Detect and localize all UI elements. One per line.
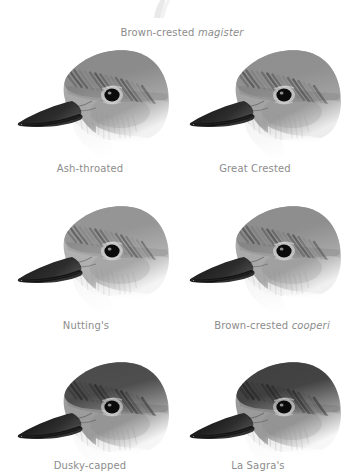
caption-common-name: Dusky-capped [54,460,127,471]
caption-common-name: Brown-crested [120,27,197,38]
caption-la-sagras: La Sagra's [231,460,284,472]
caption-common-name: La Sagra's [231,460,284,471]
caption-brown-crested-magister: Brown-crested magister [120,27,243,39]
bird-comparison-plate: Brown-crested magister [0,0,352,476]
caption-scientific-name: magister [198,27,244,38]
caption-dusky-capped: Dusky-capped [54,460,127,472]
bird-illustration-la-sagras [180,356,350,476]
bird-illustration-ash-throated [8,44,178,164]
caption-scientific-name: cooperi [292,320,330,331]
caption-common-name: Brown-crested [214,320,291,331]
caption-nuttings: Nutting's [63,320,109,332]
caption-common-name: Ash-throated [57,163,124,174]
caption-ash-throated: Ash-throated [57,163,124,175]
caption-common-name: Great Crested [219,163,291,174]
bird-illustration-nuttings [8,200,178,320]
bird-illustration-brown-crested-cooperi [180,200,350,320]
bird-illustration-great-crested [180,44,350,164]
cut-off-crest-wisp [140,0,180,18]
caption-great-crested: Great Crested [219,163,291,175]
caption-common-name: Nutting's [63,320,109,331]
bird-illustration-dusky-capped [8,356,178,476]
caption-brown-crested-cooperi: Brown-crested cooperi [214,320,330,332]
